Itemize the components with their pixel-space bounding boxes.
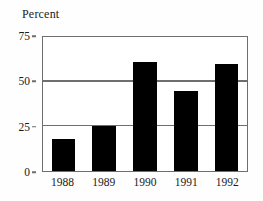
y-tick-mark <box>32 126 36 128</box>
y-tick-label: 0 <box>24 166 30 178</box>
x-tick-label: 1991 <box>166 176 207 188</box>
bar <box>133 62 157 171</box>
bar <box>174 91 198 171</box>
bar-slot <box>84 37 125 171</box>
x-tick-label: 1988 <box>42 176 83 188</box>
x-tick-label: 1992 <box>207 176 248 188</box>
bar-slot <box>43 37 84 171</box>
bar <box>52 139 76 171</box>
bar <box>215 64 239 171</box>
bar-slot <box>125 37 166 171</box>
chart-figure: Percent 0255075 19881989199019911992 <box>0 0 263 201</box>
y-tick-mark <box>32 171 36 173</box>
y-tick-label: 75 <box>19 30 31 42</box>
bar <box>92 126 116 171</box>
y-tick-mark <box>32 81 36 83</box>
chart-title: Percent <box>22 7 59 22</box>
x-tick-label: 1990 <box>124 176 165 188</box>
x-tick-label: 1989 <box>83 176 124 188</box>
y-tick-mark <box>32 35 36 37</box>
y-axis: 0255075 <box>0 36 36 172</box>
x-axis: 19881989199019911992 <box>42 176 248 188</box>
y-tick-label: 25 <box>19 121 31 133</box>
bar-slot <box>206 37 247 171</box>
bar-slot <box>165 37 206 171</box>
plot-area <box>42 36 248 172</box>
bar-series <box>43 37 247 171</box>
y-tick-label: 50 <box>19 75 31 87</box>
